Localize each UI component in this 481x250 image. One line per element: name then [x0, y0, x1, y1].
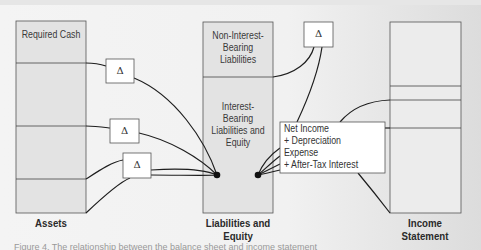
- income-statement-caption: Income Statement: [385, 217, 464, 243]
- caption-line: Statement: [385, 230, 464, 243]
- non-interest-bearing-label: Non-Interest- Bearing Liabilities: [207, 30, 269, 66]
- required-cash-label: Required Cash: [20, 29, 82, 41]
- diagram: Required Cash Assets Non-Interest- Beari…: [0, 0, 481, 250]
- net-income-line: Net Income: [284, 123, 376, 135]
- interest-bearing-label: Interest- Bearing Liabilities and Equity: [204, 101, 273, 149]
- required-cash-text: Required Cash: [22, 29, 81, 40]
- label-line: Non-Interest-: [207, 30, 269, 42]
- label-line: Equity: [204, 137, 273, 149]
- delta-assets-1-label: Δ: [106, 65, 134, 76]
- caption-line: Equity: [198, 230, 277, 243]
- caption-line: Income: [385, 217, 464, 230]
- delta-assets-3-label: Δ: [123, 159, 151, 170]
- figure-caption: Figure 4. The relationship between the b…: [14, 243, 454, 250]
- assets-caption: Assets: [20, 217, 82, 230]
- label-line: Interest-: [204, 101, 273, 113]
- junction-dot-left: [214, 172, 221, 179]
- label-line: Bearing: [207, 42, 269, 54]
- expense-line: Expense: [284, 147, 376, 159]
- label-line: Liabilities: [207, 54, 269, 66]
- income-statement-column: [390, 22, 461, 213]
- label-line: Liabilities and: [204, 125, 273, 137]
- assets-column: [16, 21, 86, 213]
- delta-top-label: Δ: [304, 28, 333, 39]
- delta-assets-2-label: Δ: [110, 125, 139, 136]
- after-tax-interest-line: + After-Tax Interest: [284, 159, 376, 171]
- caption-line: Liabilities and: [198, 217, 277, 230]
- liabilities-caption: Liabilities and Equity: [198, 217, 277, 243]
- label-line: Bearing: [204, 113, 273, 125]
- cash-flow-text: Net Income + Depreciation Expense + Afte…: [284, 123, 376, 171]
- depreciation-line: + Depreciation: [284, 135, 376, 147]
- junction-dot-right: [255, 172, 262, 179]
